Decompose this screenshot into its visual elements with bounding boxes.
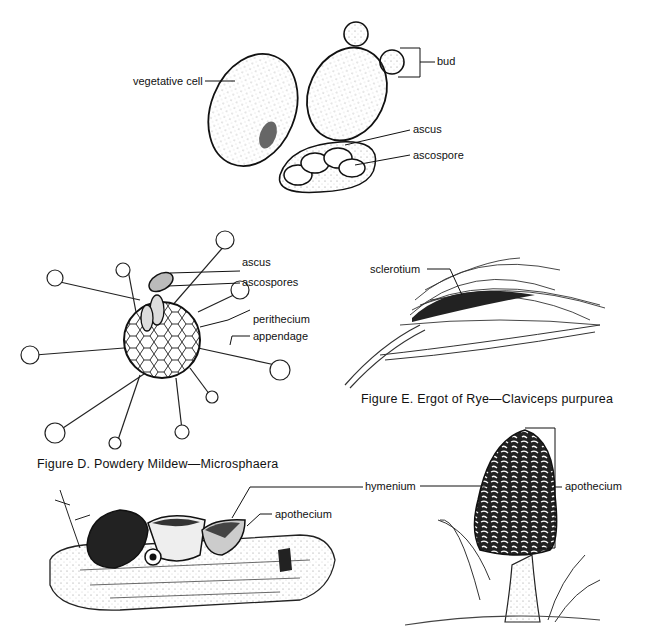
label-ascospore: ascospore xyxy=(413,150,464,161)
label-vegetative-cell: vegetative cell xyxy=(133,76,203,87)
twig xyxy=(55,490,90,548)
budding-cell xyxy=(292,22,404,154)
caption-figure-e: Figure E. Ergot of Rye—Claviceps purpure… xyxy=(361,393,613,406)
label-bud: bud xyxy=(437,56,455,67)
rye-stem xyxy=(345,325,425,388)
label-sclerotium: sclerotium xyxy=(370,264,420,275)
label-ascus-d: ascus xyxy=(242,257,271,268)
grass-blade-right xyxy=(548,555,600,622)
label-apothecium-cup: apothecium xyxy=(275,509,332,520)
ascus-with-ascospores xyxy=(280,142,376,193)
label-appendage: appendage xyxy=(253,331,308,342)
label-hymenium: hymenium xyxy=(365,481,416,492)
rye-leaf xyxy=(380,325,600,360)
label-perithecium: perithecium xyxy=(253,314,310,325)
label-ascospores: ascospores xyxy=(242,277,298,288)
label-ascus: ascus xyxy=(413,124,442,135)
sclerotium xyxy=(412,291,535,322)
label-apothecium-morel: apothecium xyxy=(565,481,622,492)
caption-figure-d: Figure D. Powdery Mildew—Microsphaera xyxy=(37,458,279,471)
morel-mushroom xyxy=(474,430,556,622)
illustration-canvas xyxy=(0,0,648,631)
ground xyxy=(405,616,600,625)
